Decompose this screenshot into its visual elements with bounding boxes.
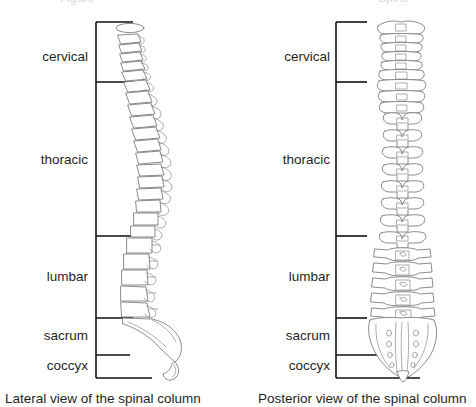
lateral-spine-drawing <box>0 0 238 407</box>
posterior-coccyx <box>397 371 409 383</box>
posterior-sacrum <box>369 317 437 378</box>
lateral-sacrum <box>123 318 181 362</box>
posterior-label-sacrum: sacrum <box>286 329 330 343</box>
posterior-spine-drawing <box>238 0 476 407</box>
lateral-label-cervical: cervical <box>42 50 88 64</box>
posterior-cervical-vertebrae <box>377 21 424 80</box>
lateral-label-lumbar: lumbar <box>47 270 88 284</box>
lateral-label-thoracic: thoracic <box>41 153 88 167</box>
posterior-thoracic-vertebrae <box>377 80 426 249</box>
lateral-label-coccyx: coccyx <box>47 359 88 373</box>
posterior-lumbar-vertebrae <box>371 248 435 320</box>
posterior-label-lumbar: lumbar <box>289 270 330 284</box>
lateral-label-sacrum: sacrum <box>44 329 88 343</box>
posterior-label-thoracic: thoracic <box>283 153 330 167</box>
posterior-label-coccyx: coccyx <box>289 359 330 373</box>
panel-lateral-view: Figure <box>0 0 238 407</box>
posterior-label-cervical: cervical <box>284 50 330 64</box>
spinal-column-figure: Figure <box>0 0 476 407</box>
lateral-caption: Lateral view of the spinal column <box>5 392 201 406</box>
posterior-caption: Posterior view of the spinal column <box>258 392 467 406</box>
panel-posterior-view: Spine <box>238 0 476 407</box>
lateral-thoracic-vertebrae <box>126 91 172 240</box>
lateral-coccyx <box>163 362 179 380</box>
lateral-lumbar-vertebrae <box>121 238 161 318</box>
